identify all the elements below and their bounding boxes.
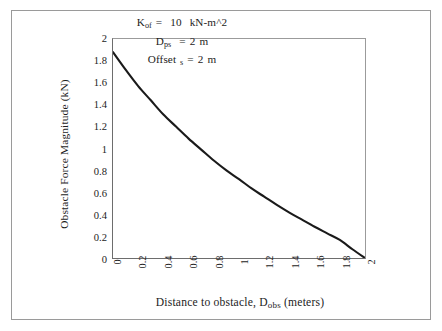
x-axis-title: Distance to obstacle, Dobs (meters) [60,296,420,309]
y-axis-tick-label: 1.4 [94,99,107,110]
annotation-dps-symbol: D [156,35,164,47]
annotation-offset: Offsets=2m [118,51,246,70]
annotation-kof-symbol: K [137,16,145,28]
x-axis-title-main: Distance to obstacle, D [156,296,268,309]
annotation-dps-value: 2 [190,35,196,47]
annotation-offset-equals: = [187,53,193,65]
x-axis-tick-label: 0.4 [163,256,174,269]
annotation-kof-units: kN-m^2 [190,16,228,28]
y-axis-tick-label: 0.6 [94,187,107,198]
annotation-offset-symbol: Offset [148,53,176,65]
x-axis-tick-label: 1.2 [264,256,275,269]
y-axis-tick-label: 2 [102,33,107,44]
y-axis-tick-label: 1.8 [94,55,107,66]
annotation-dps: Dps=2m [118,33,246,52]
figure-canvas: Obstacle Force Magnitude (kN) 00.20.40.6… [0,0,442,331]
y-axis-tick-label: 0.4 [94,209,107,220]
y-axis-tick-label: 1 [102,143,107,154]
x-axis-tick-label: 2 [366,259,377,264]
annotation-kof: Kof=10kN-m^2 [118,14,246,33]
x-axis-tick-labels: 00.20.40.60.811.21.41.61.82 [112,262,366,296]
plot-area [112,38,366,259]
x-axis-tick-label: 0.8 [214,256,225,269]
y-axis-tick-label: 1.2 [94,121,107,132]
x-axis-tick-label: 0 [112,259,123,264]
x-axis-tick-label: 0.6 [188,256,199,269]
annotation-dps-units: m [199,35,208,47]
y-axis-tick-labels: 00.20.40.60.811.21.41.61.82 [72,38,107,259]
x-axis-tick-label: 1 [239,259,250,264]
annotation-offset-units: m [207,53,216,65]
x-axis-title-subscript: obs [268,300,281,310]
annotation-offset-subscript: s [180,58,183,67]
y-axis-tick-label: 0.8 [94,165,107,176]
x-axis-tick-label: 1.8 [341,256,352,269]
x-axis-tick-label: 1.6 [315,256,326,269]
y-axis-title: Obstacle Force Magnitude (kN) [58,40,70,268]
annotation-dps-subscript: ps [164,40,171,49]
annotation-kof-subscript: of [145,21,152,30]
annotation-kof-equals: = [156,16,162,28]
data-curve [113,39,365,258]
y-axis-tick-label: 0 [102,254,107,265]
x-axis-tick-label: 0.2 [137,256,148,269]
x-axis-tick-label: 1.4 [290,256,301,269]
annotation-offset-value: 2 [198,53,204,65]
annotation-dps-equals: = [179,35,185,47]
y-axis-tick-label: 1.6 [94,77,107,88]
annotation-block: Kof=10kN-m^2 Dps=2m Offsets=2m [118,14,246,70]
x-axis-title-tail: (meters) [281,296,324,309]
annotation-kof-value: 10 [170,16,181,28]
y-axis-tick-label: 0.2 [94,231,107,242]
